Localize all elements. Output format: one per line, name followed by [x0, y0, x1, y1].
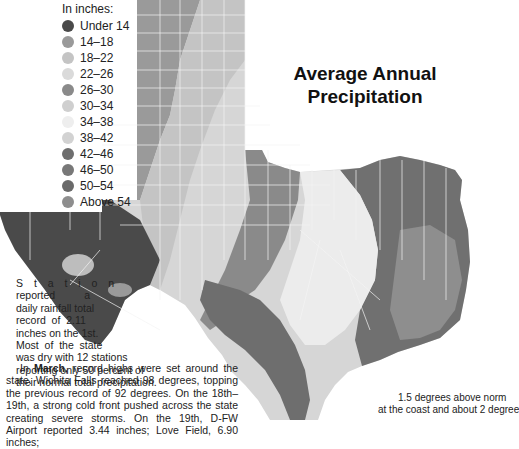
legend-item: 30–34	[62, 98, 113, 114]
swatch-icon	[62, 36, 74, 48]
legend-item: 18–22	[62, 50, 113, 66]
text-line: inches on the 1st.	[16, 327, 166, 339]
swatch-icon	[62, 52, 74, 64]
swatch-icon	[62, 20, 74, 32]
swatch-icon	[62, 84, 74, 96]
legend-label: 30–34	[80, 99, 113, 113]
legend-item: 38–42	[62, 130, 113, 146]
legend-label: Under 14	[80, 19, 129, 33]
legend-item: 46–50	[62, 162, 113, 178]
legend-item: 34–38	[62, 114, 113, 130]
legend-item: 14–18	[62, 34, 113, 50]
body-text-right: 1.5 degrees above norm at the coast and …	[378, 392, 488, 416]
swatch-icon	[62, 100, 74, 112]
legend-label: Above 54	[80, 195, 131, 209]
title-line: Precipitation	[280, 85, 450, 108]
legend-label: 18–22	[80, 51, 113, 65]
legend-item: 22–26	[62, 66, 113, 82]
text-line: reported a	[16, 289, 166, 301]
text-line: record of 2.11	[16, 314, 166, 326]
month-heading: March,	[34, 362, 68, 374]
map-legend: In inches: Under 14 14–18 18–22 22–26 26…	[0, 0, 102, 212]
text-line: Most of the state	[16, 339, 166, 351]
region-highland-patch	[62, 254, 94, 276]
legend-item: 42–46	[62, 146, 113, 162]
legend-item: Above 54	[62, 194, 131, 210]
swatch-icon	[62, 68, 74, 80]
legend-label: 50–54	[80, 179, 113, 193]
swatch-icon	[62, 132, 74, 144]
legend-label: 22–26	[80, 67, 113, 81]
legend-label: 38–42	[80, 131, 113, 145]
title-line: Average Annual	[280, 62, 450, 85]
body-text-march: In March, record highs were set around t…	[6, 362, 238, 449]
text-line: at the coast and about 2 degree	[378, 404, 488, 416]
text-intro: In	[20, 362, 34, 374]
text-line: 1.5 degrees above norm	[378, 392, 488, 404]
legend-label: 14–18	[80, 35, 113, 49]
legend-item: 26–30	[62, 82, 113, 98]
text-line: S t a t i o n	[16, 277, 166, 289]
swatch-icon	[62, 116, 74, 128]
legend-item: 50–54	[62, 178, 113, 194]
swatch-icon	[62, 164, 74, 176]
swatch-icon	[62, 196, 74, 208]
swatch-icon	[62, 180, 74, 192]
legend-label: 42–46	[80, 147, 113, 161]
legend-title: In inches:	[62, 2, 113, 16]
swatch-icon	[62, 148, 74, 160]
legend-label: 34–38	[80, 115, 113, 129]
legend-label: 26–30	[80, 83, 113, 97]
text-line: daily rainfall total	[16, 302, 166, 314]
text-body: record highs were set around the state. …	[6, 362, 238, 448]
map-title: Average Annual Precipitation	[280, 62, 450, 108]
legend-label: 46–50	[80, 163, 113, 177]
legend-item: Under 14	[62, 18, 129, 34]
